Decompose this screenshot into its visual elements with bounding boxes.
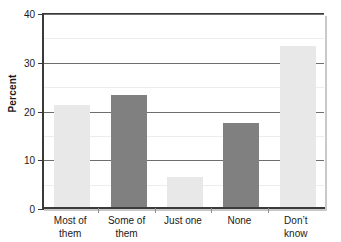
x-axis-label-line: Don’t bbox=[268, 214, 324, 227]
bar bbox=[223, 123, 259, 208]
bar bbox=[54, 105, 90, 208]
gridline-minor bbox=[44, 38, 324, 39]
x-axis-label: Most ofthem bbox=[42, 214, 98, 240]
y-axis-tick bbox=[38, 160, 44, 161]
x-axis-label-line: Some of bbox=[98, 214, 154, 227]
x-axis-label-line: Just one bbox=[155, 214, 211, 227]
x-axis-label: Don’tknow bbox=[268, 214, 324, 240]
y-axis-label: 20 bbox=[4, 106, 35, 117]
y-axis-label: 30 bbox=[4, 57, 35, 68]
x-axis-tick bbox=[211, 208, 212, 213]
x-axis-label-line: them bbox=[98, 227, 154, 240]
y-axis-label: 40 bbox=[4, 9, 35, 20]
bar bbox=[167, 177, 203, 208]
bar bbox=[111, 95, 147, 208]
x-axis-label-line: them bbox=[42, 227, 98, 240]
x-axis-label-line: know bbox=[268, 227, 324, 240]
bar-chart: Percent 010203040 Most ofthemSome ofthem… bbox=[0, 0, 341, 242]
x-axis-tick bbox=[268, 208, 269, 213]
bar bbox=[280, 46, 316, 208]
x-axis-label: Just one bbox=[155, 214, 211, 227]
x-axis-tick bbox=[155, 208, 156, 213]
y-axis-tick bbox=[38, 63, 44, 64]
x-axis-label: None bbox=[211, 214, 267, 227]
x-axis-label: Some ofthem bbox=[98, 214, 154, 240]
y-axis-label: 0 bbox=[4, 204, 35, 215]
plot-area: 010203040 bbox=[42, 13, 324, 208]
x-axis-label-line: None bbox=[211, 214, 267, 227]
y-axis-tick bbox=[38, 112, 44, 113]
gridline-major bbox=[44, 14, 324, 15]
y-axis-tick bbox=[38, 209, 44, 210]
x-axis-baseline bbox=[42, 207, 325, 209]
y-axis-label: 10 bbox=[4, 155, 35, 166]
x-axis-label-line: Most of bbox=[42, 214, 98, 227]
y-axis-tick bbox=[38, 14, 44, 15]
x-axis-tick bbox=[98, 208, 99, 213]
